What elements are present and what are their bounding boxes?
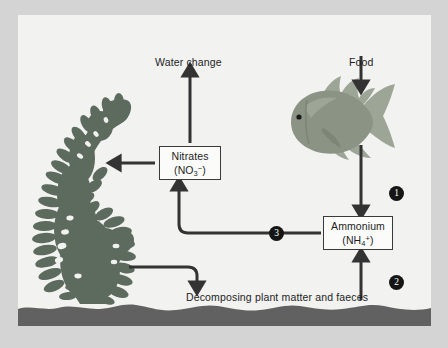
formula-suffix: ) — [370, 233, 374, 245]
box-nitrates: Nitrates (NO3−) — [159, 146, 221, 180]
step-badge-3: 3 — [269, 226, 284, 241]
box-nitrates-name: Nitrates — [160, 150, 220, 163]
box-ammonium-name: Ammonium — [324, 220, 392, 233]
box-ammonium-formula: (NH4+) — [324, 233, 392, 250]
diagram-panel: Water change Food Decomposing plant matt… — [18, 15, 431, 326]
label-decomposing: Decomposing plant matter and faeces — [186, 291, 368, 303]
formula-prefix: (NO — [174, 163, 194, 175]
step-badge-1: 1 — [389, 186, 404, 201]
box-nitrates-formula: (NO3−) — [160, 163, 220, 180]
diagram-canvas: Water change Food Decomposing plant matt… — [0, 0, 448, 348]
arrow-ammonium-to-nitrates — [179, 185, 321, 233]
formula-suffix: ) — [202, 163, 206, 175]
label-food: Food — [349, 56, 374, 68]
step-badge-2: 2 — [389, 275, 404, 290]
box-ammonium: Ammonium (NH4+) — [323, 216, 393, 250]
formula-prefix: (NH — [342, 233, 361, 245]
arrow-plant-to-decomposing — [129, 267, 197, 287]
label-water-change: Water change — [155, 56, 222, 68]
